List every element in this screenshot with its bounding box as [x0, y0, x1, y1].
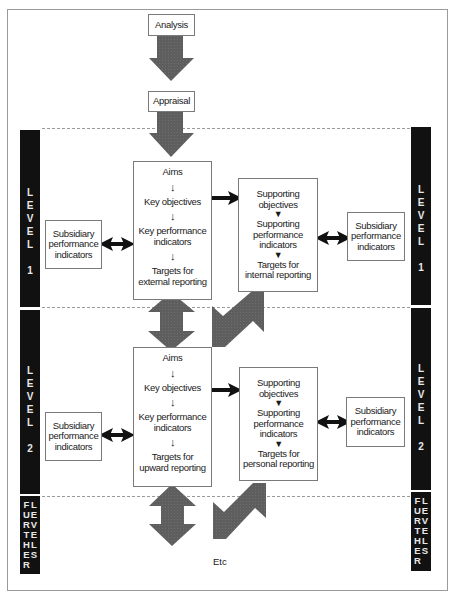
right-further-levels-bar: F U R T H E R L E V E L S: [411, 492, 431, 571]
label-char: R: [414, 556, 421, 566]
further-label: F U R T H E R: [23, 500, 30, 574]
level1-label: L E V E L 1: [411, 183, 431, 274]
aims-label: Aims: [163, 167, 183, 178]
label-char: V: [418, 388, 425, 401]
levels-label: L E V E L S: [422, 496, 428, 571]
label-char: L: [418, 414, 424, 427]
targets-label: Targets for: [152, 266, 194, 277]
label-char: V: [27, 390, 34, 403]
level2-main-box: Aims ↓ Key objectives ↓ Key performance …: [133, 347, 212, 487]
targets-label: upward reporting: [139, 463, 206, 474]
label-char: R: [23, 560, 30, 570]
level1-main-box: Aims ↓ Key objectives ↓ Key performance …: [133, 161, 212, 300]
label-char: E: [418, 222, 425, 235]
level1-level2-divider: [42, 307, 410, 308]
analysis-box: Analysis: [148, 14, 195, 36]
targets-label: internal reporting: [245, 270, 311, 281]
label-char: L: [27, 416, 33, 429]
kpi-label: indicators: [154, 423, 192, 434]
label-char: S: [31, 550, 37, 560]
levels-label: L E V E L S: [31, 500, 37, 574]
level2-further-divider: [42, 496, 410, 497]
label-char: E: [27, 199, 34, 212]
subsidiary-label: indicators: [55, 250, 93, 261]
down-arrow-icon: ↓: [170, 364, 175, 383]
subsidiary-label: indicators: [55, 442, 93, 453]
diagram-frame: [7, 9, 448, 591]
key-objectives-label: Key objectives: [144, 383, 201, 394]
down-arrow-icon: ↓: [170, 207, 175, 226]
kpi-label: indicators: [154, 237, 192, 248]
label-char: L: [418, 235, 424, 248]
label-char: E: [27, 225, 34, 238]
etc-label: Etc: [213, 556, 227, 567]
label-char: E: [418, 196, 425, 209]
targets-label: external reporting: [138, 277, 207, 288]
down-arrow-icon: ↓: [170, 433, 175, 452]
label-char: L: [418, 183, 424, 196]
level2-label: L E V E L 2: [411, 362, 431, 453]
label-char: E: [418, 401, 425, 414]
label-char: 2: [418, 440, 424, 453]
label-char: V: [27, 212, 34, 225]
key-objectives-label: Key objectives: [144, 197, 201, 208]
level2-subsidiary-left-box: Subsidiary performance indicators: [45, 412, 102, 461]
label-char: E: [27, 377, 34, 390]
left-level2-bar: L E V E L 2: [20, 310, 40, 494]
down-arrow-icon: ↓: [170, 393, 175, 412]
label-char: L: [27, 238, 33, 251]
down-arrow-icon: ↓: [170, 247, 175, 266]
left-level1-bar: L E V E L 1: [20, 130, 40, 307]
level1-label: L E V E L 1: [20, 186, 40, 277]
right-level2-bar: L E V E L 2: [411, 308, 431, 490]
subsidiary-label: indicators: [357, 427, 395, 438]
label-char: V: [418, 209, 425, 222]
analysis-label: Analysis: [155, 20, 188, 31]
label-char: L: [27, 186, 33, 199]
aims-label: Aims: [163, 353, 183, 364]
label-char: L: [418, 362, 424, 375]
subsidiary-label: indicators: [357, 242, 395, 253]
level2-label: L E V E L 2: [20, 364, 40, 455]
level1-top-divider: [42, 128, 410, 129]
label-char: E: [418, 375, 425, 388]
down-arrow-icon: ↓: [170, 178, 175, 197]
targets-label: Targets for: [152, 452, 194, 463]
label-char: 1: [27, 264, 33, 277]
label-char: 2: [27, 442, 33, 455]
further-label: F U R T H E R: [414, 496, 421, 571]
left-further-levels-bar: F U R T H E R L E V E L S: [20, 496, 40, 574]
label-char: 1: [418, 261, 424, 274]
label-char: L: [27, 364, 33, 377]
right-level1-bar: L E V E L 1: [411, 127, 431, 305]
appraisal-box: Appraisal: [148, 91, 195, 112]
targets-label: personal reporting: [243, 459, 314, 470]
kpi-label: Key performance: [139, 412, 207, 423]
level1-supporting-box: Supporting objectives ▼ Supporting perfo…: [238, 178, 318, 292]
label-char: S: [422, 546, 428, 556]
level2-supporting-box: Supporting objectives ▼ Supporting perfo…: [239, 367, 318, 481]
label-char: E: [27, 403, 34, 416]
level1-subsidiary-left-box: Subsidiary performance indicators: [45, 220, 102, 269]
level1-subsidiary-right-box: Subsidiary performance indicators: [347, 212, 405, 261]
kpi-label: Key performance: [139, 226, 207, 237]
level2-subsidiary-right-box: Subsidiary performance indicators: [346, 397, 405, 447]
appraisal-label: Appraisal: [153, 96, 190, 107]
